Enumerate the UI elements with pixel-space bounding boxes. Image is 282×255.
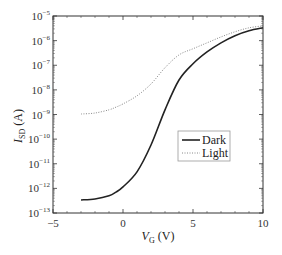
series-dark-line	[81, 28, 263, 200]
y-tick-label: 10−9	[32, 108, 51, 121]
y-axis-label-sub: SD	[18, 129, 27, 139]
x-tick-label: 5	[190, 217, 196, 229]
y-tick-label: 10−5	[32, 9, 51, 22]
series-layer	[81, 26, 263, 200]
y-tick-label: 10−7	[32, 58, 51, 71]
y-tick-label: 10−6	[32, 34, 51, 47]
x-tick-label: 10	[258, 217, 270, 229]
legend: Dark Light	[178, 131, 230, 161]
series-light-line	[81, 26, 263, 114]
y-axis-label: ISD (A)	[11, 109, 27, 144]
y-tick-label: 10−8	[32, 83, 51, 96]
y-axis-label-unit: (A)	[11, 109, 25, 129]
chart-svg: 10−1310−1210−1110−1010−910−810−710−610−5…	[0, 0, 282, 255]
plot-frame	[53, 16, 263, 213]
x-axis-label: VG (V)	[142, 229, 175, 245]
x-tick-label: −5	[47, 217, 59, 229]
x-tick-label: 0	[120, 217, 126, 229]
y-tick-label: 10−12	[28, 181, 50, 194]
legend-label-dark: Dark	[202, 133, 226, 147]
x-axis-label-unit: (V)	[155, 229, 175, 243]
y-axis-ticks: 10−1310−1210−1110−1010−910−810−710−610−5	[28, 9, 263, 219]
x-axis-ticks: −50510	[47, 16, 269, 229]
y-tick-label: 10−11	[28, 157, 50, 170]
legend-label-light: Light	[202, 146, 229, 160]
y-tick-label: 10−10	[28, 132, 50, 145]
